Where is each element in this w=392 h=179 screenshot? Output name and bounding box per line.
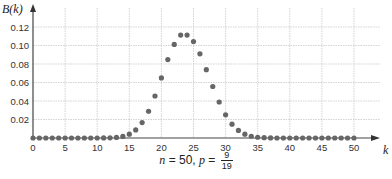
caption-p-fraction: 9 19 bbox=[221, 150, 233, 171]
axes bbox=[30, 4, 380, 141]
data-point bbox=[88, 135, 93, 140]
data-point bbox=[332, 135, 337, 140]
data-point bbox=[43, 135, 48, 140]
data-point bbox=[140, 120, 145, 125]
data-point bbox=[339, 135, 344, 140]
y-axis-arrow-icon bbox=[30, 4, 36, 12]
data-point bbox=[255, 135, 260, 140]
data-point bbox=[294, 135, 299, 140]
y-tick-label: 0.04 bbox=[11, 96, 30, 107]
data-point bbox=[37, 135, 42, 140]
data-point bbox=[197, 51, 202, 56]
data-point bbox=[56, 135, 61, 140]
data-point bbox=[146, 109, 151, 114]
data-point bbox=[178, 32, 183, 37]
y-tick-label: 0.12 bbox=[11, 22, 30, 33]
data-point bbox=[114, 135, 119, 140]
data-point bbox=[319, 135, 324, 140]
y-tick-label: 0.02 bbox=[11, 114, 30, 125]
data-point bbox=[210, 84, 215, 89]
data-point bbox=[236, 128, 241, 133]
data-point bbox=[306, 135, 311, 140]
data-point bbox=[249, 134, 254, 139]
data-point bbox=[101, 135, 106, 140]
data-point bbox=[69, 135, 74, 140]
data-point bbox=[159, 75, 164, 80]
data-point bbox=[281, 135, 286, 140]
data-point bbox=[120, 134, 125, 139]
data-point bbox=[351, 135, 356, 140]
caption-n-label: n bbox=[159, 153, 165, 167]
data-point bbox=[204, 67, 209, 72]
y-tick-label: 0.10 bbox=[11, 40, 30, 51]
caption-p-label: p bbox=[199, 153, 205, 167]
data-point bbox=[345, 135, 350, 140]
data-point bbox=[133, 127, 138, 132]
data-point bbox=[50, 135, 55, 140]
chart-caption: n = 50, p = 9 19 bbox=[0, 150, 392, 171]
data-point bbox=[165, 57, 170, 62]
data-point bbox=[242, 132, 247, 137]
caption-p-denominator: 19 bbox=[221, 161, 233, 171]
data-point bbox=[75, 135, 80, 140]
data-point bbox=[172, 42, 177, 47]
data-point bbox=[274, 135, 279, 140]
data-point bbox=[217, 99, 222, 104]
data-point bbox=[300, 135, 305, 140]
data-point bbox=[127, 132, 132, 137]
data-point bbox=[63, 135, 68, 140]
data-point bbox=[152, 93, 157, 98]
data-point bbox=[82, 135, 87, 140]
y-tick-label: 0.06 bbox=[11, 77, 30, 88]
caption-p-numerator: 9 bbox=[221, 150, 233, 161]
grid-lines bbox=[33, 8, 380, 138]
data-point bbox=[229, 122, 234, 127]
y-tick-labels: 0.020.040.060.080.100.12 bbox=[11, 22, 30, 126]
data-point bbox=[191, 39, 196, 44]
caption-n-value: = 50, bbox=[169, 153, 196, 167]
data-point bbox=[107, 135, 112, 140]
data-point bbox=[268, 135, 273, 140]
y-tick-label: 0.08 bbox=[11, 59, 30, 70]
y-axis-label: B(k) bbox=[2, 2, 23, 16]
data-point bbox=[313, 135, 318, 140]
data-point bbox=[262, 135, 267, 140]
data-point bbox=[30, 135, 35, 140]
data-point bbox=[287, 135, 292, 140]
caption-p-eq: = bbox=[208, 153, 215, 167]
data-point bbox=[326, 135, 331, 140]
data-point bbox=[184, 32, 189, 37]
data-point bbox=[95, 135, 100, 140]
data-point bbox=[223, 112, 228, 117]
x-axis-arrow-icon bbox=[371, 135, 380, 141]
